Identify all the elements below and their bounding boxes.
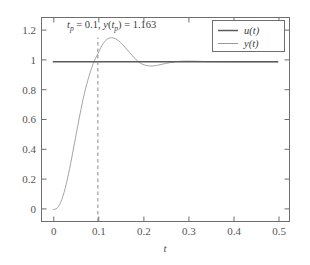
legend[interactable]: u(t) y(t)	[213, 21, 285, 52]
x-tick-label: 0.1	[92, 225, 106, 237]
x-tick-label: 0.3	[182, 225, 196, 237]
x-tick-label: 0.2	[137, 225, 151, 237]
y-tick-label: 0.6	[22, 113, 36, 125]
x-tick-label: 0.4	[227, 225, 241, 237]
chart-svg: 0 0.2 0.4 0.6 0.8 1 1.2 0 0.1 0.2 0.3 0.…	[0, 0, 310, 265]
figure-container: 0 0.2 0.4 0.6 0.8 1 1.2 0 0.1 0.2 0.3 0.…	[0, 0, 310, 265]
y-tick-label: 0	[31, 203, 37, 215]
y-tick-label: 1.2	[22, 24, 36, 36]
legend-label-u: u(t)	[244, 25, 260, 37]
annot-eq2: = 1.163	[122, 19, 157, 30]
y-tick-label: 0.4	[22, 143, 36, 155]
annot-eq1: = 0.1,	[74, 19, 104, 30]
y-tick-label: 0.8	[22, 84, 36, 96]
y-tick-label: 1	[31, 54, 37, 66]
x-tick-label: 0	[51, 225, 57, 237]
y-tick-label: 0.2	[22, 173, 36, 185]
legend-label-y: y(t)	[243, 38, 259, 50]
x-tick-label: 0.5	[272, 225, 286, 237]
